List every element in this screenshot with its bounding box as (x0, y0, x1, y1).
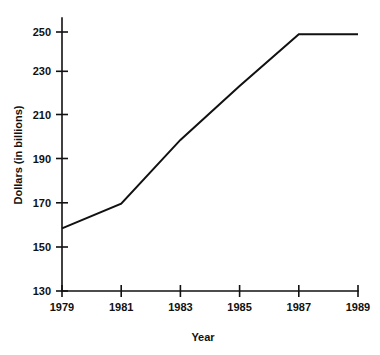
y-axis-tick-labels: 250 230 210 190 170 150 130 (33, 26, 51, 297)
y-tick-label-130: 130 (33, 285, 51, 297)
y-tick-label-250: 250 (33, 26, 51, 38)
line-chart: 250 230 210 190 170 150 130 1979 1981 19… (0, 0, 380, 355)
y-tick-label-210: 210 (33, 109, 51, 121)
x-axis-title: Year (191, 331, 215, 343)
x-tick-label-1989: 1989 (346, 301, 370, 313)
y-tick-label-190: 190 (33, 153, 51, 165)
y-tick-label-170: 170 (33, 197, 51, 209)
x-tick-label-1979: 1979 (50, 301, 74, 313)
y-tick-label-230: 230 (33, 65, 51, 77)
x-tick-label-1985: 1985 (227, 301, 251, 313)
y-tick-label-150: 150 (33, 241, 51, 253)
x-tick-label-1983: 1983 (168, 301, 192, 313)
x-axis-tick-labels: 1979 1981 1983 1985 1987 1989 (50, 301, 370, 313)
x-tick-label-1987: 1987 (287, 301, 311, 313)
data-series-line (62, 34, 358, 228)
chart-canvas: 250 230 210 190 170 150 130 1979 1981 19… (0, 0, 380, 355)
y-axis-title: Dollars (in billions) (12, 105, 24, 204)
x-tick-label-1981: 1981 (109, 301, 133, 313)
